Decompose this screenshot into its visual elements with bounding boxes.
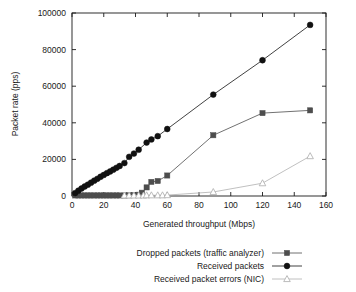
data-point-circle-marker xyxy=(148,137,154,143)
legend-label: Dropped packets (traffic analyzer) xyxy=(137,248,265,258)
x-tick-label: 40 xyxy=(131,200,141,210)
data-point-square-marker xyxy=(149,179,154,184)
data-point-circle-marker xyxy=(136,147,142,153)
data-point-circle-marker xyxy=(260,57,266,63)
y-tick-label: 20000 xyxy=(42,154,66,164)
y-tick-label: 0 xyxy=(61,191,66,201)
data-point-square-marker xyxy=(260,111,265,116)
data-point-square-marker xyxy=(165,173,170,178)
data-point-circle-marker xyxy=(210,92,216,98)
legend-square-marker xyxy=(284,250,289,255)
data-point-circle-marker xyxy=(164,126,170,132)
data-point-circle-marker xyxy=(155,133,161,139)
y-axis-title: Packet rate (pps) xyxy=(10,71,20,136)
data-point-circle-marker xyxy=(131,151,137,157)
data-point-square-marker xyxy=(308,108,313,113)
x-tick-label: 0 xyxy=(70,200,75,210)
chart-figure: 020000400006000080000100000 020406080100… xyxy=(0,0,356,292)
y-tick-label: 100000 xyxy=(38,8,67,18)
data-point-circle-marker xyxy=(121,160,127,166)
data-point-square-marker xyxy=(144,185,149,190)
x-tick-label: 120 xyxy=(255,200,269,210)
x-tick-label: 140 xyxy=(287,200,301,210)
packet-rate-line-chart: 020000400006000080000100000 020406080100… xyxy=(0,0,356,292)
x-tick-label: 60 xyxy=(163,200,173,210)
data-point-square-marker xyxy=(155,178,160,183)
x-tick-label: 80 xyxy=(194,200,204,210)
y-tick-label: 80000 xyxy=(42,45,66,55)
data-point-circle-marker xyxy=(307,22,313,28)
x-tick-label: 160 xyxy=(319,200,333,210)
x-tick-label: 20 xyxy=(99,200,109,210)
y-tick-label: 60000 xyxy=(42,81,66,91)
y-tick-label: 40000 xyxy=(42,118,66,128)
legend-circle-marker xyxy=(284,263,290,269)
x-axis-title: Generated throughput (Mbps) xyxy=(143,219,255,229)
data-point-square-marker xyxy=(211,133,216,138)
legend-label: Received packets xyxy=(197,261,264,271)
x-tick-label: 100 xyxy=(224,200,238,210)
legend-label: Received packet errors (NIC) xyxy=(154,274,264,284)
